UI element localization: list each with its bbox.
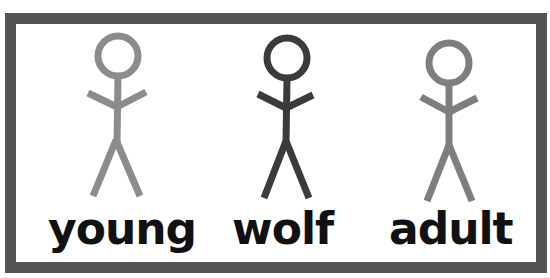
young-stick-figure-icon	[88, 36, 146, 196]
label-young: young	[48, 204, 196, 254]
wolf-stick-figure-icon	[258, 38, 313, 198]
label-wolf: wolf	[232, 204, 333, 254]
adult-stick-figure-icon	[421, 43, 477, 201]
label-adult: adult	[389, 204, 513, 254]
